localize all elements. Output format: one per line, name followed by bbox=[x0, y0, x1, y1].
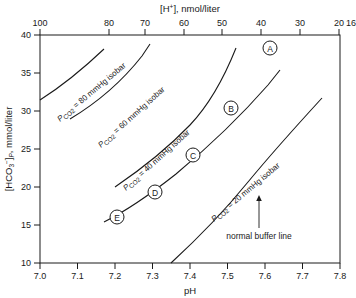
top-tick-label-70: 70 bbox=[140, 18, 150, 28]
y-axis-title: [HCO3−]P, mmol/liter bbox=[3, 107, 15, 192]
curve-labels-group: PCO2 = 80 mmHg isobar PCO2 = 60 mmHg iso… bbox=[56, 61, 283, 224]
x-tick-label-7-5: 7.5 bbox=[221, 271, 234, 281]
label-pco2-60-isobar: PCO2 = 60 mmHg isobar bbox=[96, 85, 167, 151]
top-axis: 100 80 70 60 50 40 30 20 16 [H+], nmol/l… bbox=[32, 3, 356, 35]
data-point-e[interactable]: E bbox=[110, 210, 124, 224]
x-tick-label-7-0: 7.0 bbox=[34, 271, 47, 281]
x-tick-label-7-1: 7.1 bbox=[71, 271, 84, 281]
x-tick-label-7-2: 7.2 bbox=[109, 271, 122, 281]
data-point-d[interactable]: D bbox=[148, 185, 162, 199]
top-tick-label-40: 40 bbox=[256, 18, 266, 28]
top-tick-label-16: 16 bbox=[346, 18, 356, 28]
x-axis-title: pH bbox=[184, 285, 196, 296]
top-tick-label-20: 20 bbox=[334, 18, 344, 28]
annotation-arrow-head bbox=[256, 195, 262, 201]
x-tick-label-7-3: 7.3 bbox=[146, 271, 159, 281]
top-tick-label-30: 30 bbox=[295, 18, 305, 28]
top-tick-label-50: 50 bbox=[217, 18, 227, 28]
y-tick-label-15: 15 bbox=[21, 220, 31, 230]
y-axis: 40 35 30 25 20 15 10 [HCO3−]P, mmol/lite… bbox=[3, 30, 40, 268]
label-pco2-40-isobar: PCO2 = 40 mmHg isobar bbox=[121, 128, 192, 194]
label-pco2-20-isobar: PCO2 = 20 mmHg isobar bbox=[210, 161, 283, 224]
x-axis: 7.0 7.1 7.2 7.3 7.4 7.5 7.6 7.7 7.8 pH bbox=[34, 263, 347, 296]
x-tick-label-7-8: 7.8 bbox=[334, 271, 347, 281]
y-tick-label-30: 30 bbox=[21, 106, 31, 116]
data-point-a[interactable]: A bbox=[263, 41, 277, 55]
data-point-b[interactable]: B bbox=[224, 101, 238, 115]
point-label-d: D bbox=[152, 188, 158, 198]
point-label-a: A bbox=[267, 44, 273, 54]
y-tick-label-35: 35 bbox=[21, 68, 31, 78]
curve-normal-buffer-line bbox=[104, 70, 280, 222]
y-tick-label-20: 20 bbox=[21, 182, 31, 192]
x-tick-label-7-7: 7.7 bbox=[296, 271, 309, 281]
y-tick-label-40: 40 bbox=[21, 30, 31, 40]
y-tick-label-10: 10 bbox=[21, 258, 31, 268]
acid-base-nomogram-chart: 100 80 70 60 50 40 30 20 16 [H+], nmol/l… bbox=[0, 0, 356, 298]
x-tick-label-7-6: 7.6 bbox=[259, 271, 272, 281]
label-pco2-80-isobar: PCO2 = 80 mmHg isobar bbox=[56, 61, 129, 124]
point-label-e: E bbox=[114, 213, 120, 223]
data-point-c[interactable]: C bbox=[186, 148, 200, 162]
chart-figure: 100 80 70 60 50 40 30 20 16 [H+], nmol/l… bbox=[0, 0, 356, 298]
top-tick-label-60: 60 bbox=[179, 18, 189, 28]
top-axis-title: [H+], nmol/liter bbox=[160, 3, 220, 14]
x-tick-label-7-4: 7.4 bbox=[184, 271, 197, 281]
top-tick-label-100: 100 bbox=[32, 18, 47, 28]
labeled-points-group: A B C D E bbox=[110, 41, 277, 224]
annotation-label-normal-buffer-line: normal buffer line bbox=[226, 231, 292, 241]
y-tick-label-25: 25 bbox=[21, 144, 31, 154]
point-label-b: B bbox=[228, 104, 234, 114]
top-tick-label-80: 80 bbox=[104, 18, 114, 28]
point-label-c: C bbox=[190, 151, 196, 161]
